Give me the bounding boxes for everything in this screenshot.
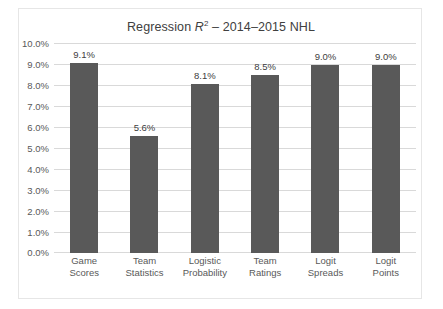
x-axis-label-line: Probability <box>175 267 235 279</box>
bar-slot: 5.6% <box>114 43 174 253</box>
y-axis-tick-label: 0.0% <box>27 247 49 258</box>
bar-value-label: 9.1% <box>73 49 95 60</box>
chart-title-r-symbol: R <box>195 20 204 34</box>
bar-value-label: 8.5% <box>254 61 276 72</box>
bar-slot: 9.1% <box>54 43 114 253</box>
bar[interactable]: 9.0% <box>311 65 339 253</box>
chart-title-prefix: Regression <box>127 20 195 34</box>
x-axis-label-line: Points <box>356 267 416 279</box>
bar[interactable]: 8.1% <box>191 84 219 253</box>
x-axis-tick-label: Team Statistics <box>114 255 174 278</box>
bar[interactable]: 8.5% <box>251 75 279 253</box>
x-axis-tick-label: Team Ratings <box>235 255 295 278</box>
x-axis-label-line: Logit <box>295 255 355 267</box>
y-axis-tick-label: 3.0% <box>27 185 49 196</box>
y-axis-tick-label: 10.0% <box>22 38 49 49</box>
x-axis-label-line: Team <box>235 255 295 267</box>
bar[interactable]: 5.6% <box>130 136 158 253</box>
x-axis-tick-label: Game Scores <box>54 255 114 278</box>
y-axis-tick-label: 5.0% <box>27 143 49 154</box>
chart-title-suffix: – 2014–2015 NHL <box>208 20 315 34</box>
chart-container: Regression R2 – 2014–2015 NHL 10.0% 9.0%… <box>18 8 422 299</box>
x-axis-label-line: Logistic <box>175 255 235 267</box>
y-axis-tick-label: 6.0% <box>27 122 49 133</box>
x-axis-label-line: Spreads <box>295 267 355 279</box>
x-axis-tick-label: Logit Points <box>356 255 416 278</box>
y-axis-tick-label: 2.0% <box>27 206 49 217</box>
bar-slot: 8.5% <box>235 43 295 253</box>
x-axis-label-line: Team <box>114 255 174 267</box>
chart-title: Regression R2 – 2014–2015 NHL <box>19 20 423 34</box>
x-axis-label-line: Logit <box>356 255 416 267</box>
y-axis-tick-label: 8.0% <box>27 80 49 91</box>
bar[interactable]: 9.1% <box>70 63 98 253</box>
bar-slot: 9.0% <box>356 43 416 253</box>
bar-value-label: 9.0% <box>375 51 397 62</box>
bar-slot: 8.1% <box>175 43 235 253</box>
x-axis-tick-label: Logit Spreads <box>295 255 355 278</box>
x-axis-tick-label: Logistic Probability <box>175 255 235 278</box>
y-axis-tick-label: 1.0% <box>27 227 49 238</box>
bar-value-label: 5.6% <box>134 122 156 133</box>
x-axis-labels: Game Scores Team Statistics Logistic Pro… <box>54 255 416 278</box>
plot-area: 10.0% 9.0% 8.0% 7.0% 6.0% 5.0% 4.0% 3.0% <box>54 43 416 253</box>
y-axis-tick-label: 7.0% <box>27 101 49 112</box>
y-axis-tick-label: 4.0% <box>27 164 49 175</box>
x-axis-label-line: Scores <box>54 267 114 279</box>
x-axis-label-line: Ratings <box>235 267 295 279</box>
y-axis-tick-label: 9.0% <box>27 59 49 70</box>
bar-series: 9.1% 5.6% 8.1% 8.5% 9.0% <box>54 43 416 253</box>
x-axis-label-line: Statistics <box>114 267 174 279</box>
bar-slot: 9.0% <box>295 43 355 253</box>
bar-value-label: 9.0% <box>315 51 337 62</box>
bar[interactable]: 9.0% <box>372 65 400 253</box>
bar-value-label: 8.1% <box>194 70 216 81</box>
x-axis-label-line: Game <box>54 255 114 267</box>
